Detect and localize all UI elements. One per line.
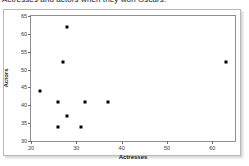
- plot-frame: 30354045505560652030405060: [30, 15, 236, 142]
- caption-strip: Actresses and actors when they won Oscar…: [0, 0, 249, 7]
- y-axis-tick: [28, 34, 31, 35]
- scatter-point: [39, 90, 42, 93]
- scatter-point: [57, 100, 60, 103]
- figure-caption: Actresses and actors when they won Oscar…: [2, 0, 166, 4]
- y-axis-tick-label: 60: [21, 31, 27, 37]
- y-axis-tick-label: 50: [21, 67, 27, 73]
- y-axis-tick-label: 55: [21, 49, 27, 55]
- x-axis-tick: [31, 141, 32, 144]
- x-axis-tick: [76, 141, 77, 144]
- y-axis-tick: [28, 52, 31, 53]
- y-axis-tick: [28, 87, 31, 88]
- y-axis-tick-label: 45: [21, 84, 27, 90]
- scatter-point: [66, 25, 69, 28]
- x-axis-tick-label: 60: [209, 145, 215, 151]
- x-axis-title: Actresses: [30, 154, 236, 160]
- y-axis-tick: [28, 105, 31, 106]
- x-axis-tick-label: 20: [28, 145, 34, 151]
- y-axis-tick: [28, 70, 31, 71]
- x-axis-tick-label: 30: [73, 145, 79, 151]
- x-axis-tick: [122, 141, 123, 144]
- y-axis-tick-label: 30: [21, 138, 27, 144]
- scatter-point: [84, 100, 87, 103]
- scatter-point: [79, 125, 82, 128]
- plot-area: [31, 16, 235, 141]
- x-axis-tick: [167, 141, 168, 144]
- figure-panel: Actors 30354045505560652030405060 Actres…: [3, 9, 241, 156]
- y-axis-tick: [28, 123, 31, 124]
- scatter-point: [66, 115, 69, 118]
- y-axis-tick: [28, 16, 31, 17]
- y-axis-title: Actors: [3, 68, 9, 87]
- scatter-point: [57, 125, 60, 128]
- y-axis-tick-label: 35: [21, 120, 27, 126]
- y-axis-tick-label: 65: [21, 13, 27, 19]
- x-axis-tick-label: 50: [164, 145, 170, 151]
- scatter-point: [61, 61, 64, 64]
- x-axis-tick: [212, 141, 213, 144]
- y-axis-tick-label: 40: [21, 102, 27, 108]
- scatter-point: [107, 100, 110, 103]
- scatter-point: [224, 61, 227, 64]
- x-axis-tick-label: 40: [119, 145, 125, 151]
